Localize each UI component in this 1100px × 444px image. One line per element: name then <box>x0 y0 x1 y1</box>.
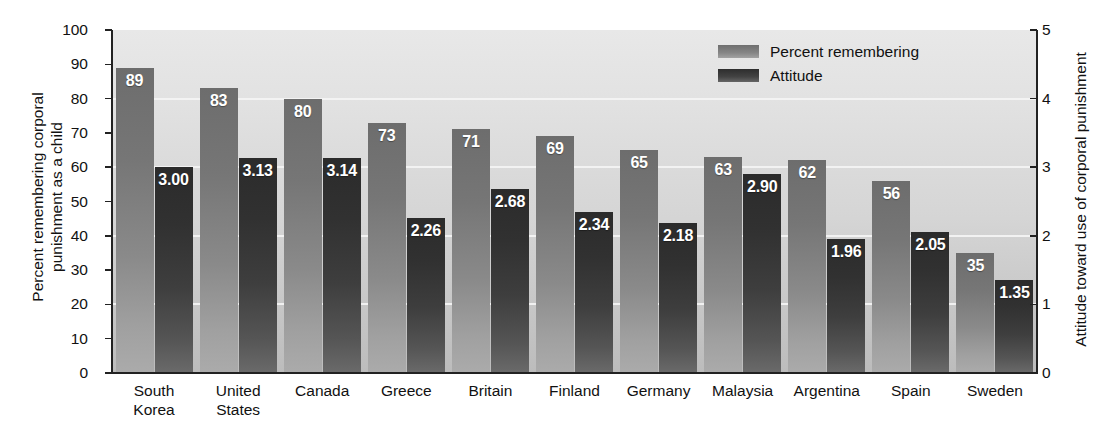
bar-percent-remembering: 65 <box>620 150 658 373</box>
y-axis-left-tick-label: 40 <box>48 228 88 244</box>
bar-percent-remembering: 73 <box>368 123 406 373</box>
y-axis-right-tick-mark <box>1030 166 1037 168</box>
bar-value-label: 3.00 <box>155 171 193 189</box>
y-axis-right-tick-mark <box>1030 29 1037 31</box>
y-axis-left-tick-label: 80 <box>48 91 88 107</box>
bar-value-label: 35 <box>956 257 994 275</box>
bar-percent-remembering: 35 <box>956 253 994 373</box>
legend-swatch-percent-remembering <box>718 45 759 58</box>
bar-value-label: 2.90 <box>743 178 781 196</box>
bar-value-label: 73 <box>368 127 406 145</box>
bar-attitude: 2.68 <box>491 189 529 373</box>
bar-value-label: 1.96 <box>827 243 865 261</box>
bar-attitude: 3.00 <box>155 167 193 373</box>
bar-percent-remembering: 80 <box>284 99 322 373</box>
bar-percent-remembering: 63 <box>704 157 742 373</box>
y-axis-right-tick-mark <box>1030 372 1037 374</box>
bar-value-label: 2.34 <box>575 216 613 234</box>
x-axis-category-label: South Korea <box>112 381 196 419</box>
bar-value-label: 3.14 <box>323 162 361 180</box>
chart-container: 893.00833.13803.14732.26712.68692.34652.… <box>0 0 1100 444</box>
y-axis-right-tick-label: 1 <box>1042 296 1072 312</box>
y-axis-left-tick-mark <box>105 372 112 374</box>
y-axis-left-tick-mark <box>105 132 112 134</box>
bar-attitude: 2.26 <box>407 218 445 373</box>
x-axis-category-label: Greece <box>364 381 448 400</box>
legend-label-percent-remembering: Percent remembering <box>770 44 919 60</box>
x-axis-category-label: Malaysia <box>701 381 785 400</box>
y-axis-right-tick-label: 4 <box>1042 91 1072 107</box>
x-axis-category-label: Canada <box>280 381 364 400</box>
y-axis-left-tick-mark <box>105 166 112 168</box>
y-axis-left-tick-mark <box>105 235 112 237</box>
bar-value-label: 3.13 <box>239 162 277 180</box>
bar-value-label: 56 <box>872 185 910 203</box>
bar-value-label: 2.26 <box>407 222 445 240</box>
y-axis-right-tick-label: 0 <box>1042 365 1072 381</box>
bar-percent-remembering: 71 <box>452 129 490 373</box>
bar-value-label: 2.18 <box>659 227 697 245</box>
bar-value-label: 80 <box>284 103 322 121</box>
x-axis-category-label: Finland <box>532 381 616 400</box>
legend-label-attitude: Attitude <box>770 68 823 84</box>
y-axis-left-tick-mark <box>105 64 112 66</box>
bar-value-label: 2.68 <box>491 193 529 211</box>
y-axis-left-tick-label: 100 <box>48 22 88 38</box>
y-axis-right-tick-label: 5 <box>1042 22 1072 38</box>
legend-item-percent-remembering: Percent remembering <box>718 41 919 62</box>
bar-value-label: 65 <box>620 154 658 172</box>
x-axis-spine <box>111 372 1038 374</box>
gridline <box>112 98 1037 100</box>
y-axis-left-tick-mark <box>105 201 112 203</box>
bar-value-label: 71 <box>452 133 490 151</box>
bar-attitude: 2.18 <box>659 223 697 373</box>
y-axis-right-tick-label: 3 <box>1042 159 1072 175</box>
bar-attitude: 3.14 <box>323 158 361 373</box>
bar-attitude: 2.05 <box>911 232 949 373</box>
bar-percent-remembering: 69 <box>536 136 574 373</box>
bar-value-label: 63 <box>704 161 742 179</box>
right-axis-spine <box>1036 30 1038 373</box>
y-axis-left-tick-label: 60 <box>48 159 88 175</box>
bar-value-label: 89 <box>116 72 154 90</box>
y-axis-left-tick-mark <box>105 338 112 340</box>
y-axis-left-tick-mark <box>105 304 112 306</box>
y-axis-left-tick-label: 70 <box>48 125 88 141</box>
bar-attitude: 1.96 <box>827 239 865 373</box>
y-axis-left-tick-label: 90 <box>48 56 88 72</box>
x-axis-category-label: Germany <box>617 381 701 400</box>
x-axis-category-label: Sweden <box>953 381 1037 400</box>
y-axis-left-tick-label: 10 <box>48 331 88 347</box>
bar-attitude: 2.34 <box>575 212 613 373</box>
legend: Percent remembering Attitude <box>718 41 919 89</box>
y-axis-right-title: Attitude toward use of corporal punishme… <box>1071 25 1090 375</box>
y-axis-right-tick-mark <box>1030 98 1037 100</box>
legend-swatch-attitude <box>718 69 759 82</box>
bar-percent-remembering: 89 <box>116 68 154 373</box>
y-axis-left-tick-label: 20 <box>48 296 88 312</box>
y-axis-left-tick-mark <box>105 269 112 271</box>
bar-attitude: 1.35 <box>995 280 1033 373</box>
bar-percent-remembering: 83 <box>200 88 238 373</box>
y-axis-left-tick-label: 0 <box>48 365 88 381</box>
y-axis-left-tick-label: 50 <box>48 194 88 210</box>
y-axis-right-tick-mark <box>1030 304 1037 306</box>
y-axis-left-tick-label: 30 <box>48 262 88 278</box>
bar-percent-remembering: 56 <box>872 181 910 373</box>
y-axis-right-tick-label: 2 <box>1042 228 1072 244</box>
y-axis-right-tick-mark <box>1030 235 1037 237</box>
legend-item-attitude: Attitude <box>718 65 919 86</box>
x-axis-category-label: Spain <box>869 381 953 400</box>
y-axis-left-tick-mark <box>105 29 112 31</box>
bar-value-label: 62 <box>788 164 826 182</box>
y-axis-left-tick-mark <box>105 98 112 100</box>
bar-value-label: 2.05 <box>911 236 949 254</box>
bar-value-label: 69 <box>536 140 574 158</box>
bar-attitude: 3.13 <box>239 158 277 373</box>
bar-value-label: 83 <box>200 92 238 110</box>
x-axis-category-label: Britain <box>448 381 532 400</box>
bar-percent-remembering: 62 <box>788 160 826 373</box>
bar-value-label: 1.35 <box>995 284 1033 302</box>
bar-attitude: 2.90 <box>743 174 781 373</box>
x-axis-category-label: United States <box>196 381 280 419</box>
